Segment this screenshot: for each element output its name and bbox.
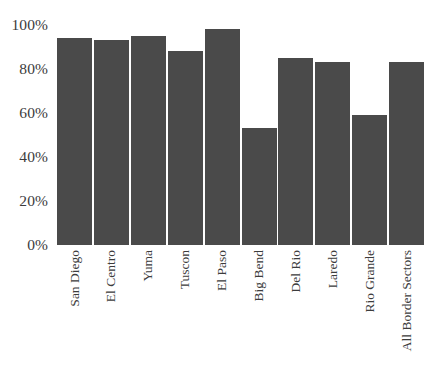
bar-slot [315,25,350,245]
bar-slot [57,25,92,245]
x-axis-tick-label: El Paso [215,250,229,291]
x-axis-tick-label: All Border Sectors [400,250,414,351]
bar-slot [94,25,129,245]
y-axis-tick-label: 40% [19,149,48,165]
x-axis-tick: San Diego [57,248,92,367]
x-axis-tick-label: El Centro [105,250,119,302]
x-axis-tick: El Centro [94,248,129,367]
plot-area [57,25,425,245]
x-axis-tick: Big Bend [242,248,277,367]
x-axis-tick-label: Yuma [142,250,156,282]
bar-slot [389,25,424,245]
x-axis-tick: Rio Grande [352,248,387,367]
bar[interactable] [131,36,166,245]
x-axis-tick-label: Tuscon [178,250,192,289]
bar-slot [205,25,240,245]
x-axis-tick-label: Rio Grande [363,250,377,313]
x-axis-tick: Del Rio [278,248,313,367]
x-axis-tick: All Border Sectors [389,248,424,367]
x-axis-tick: El Paso [205,248,240,367]
x-axis-tick: Laredo [315,248,350,367]
bar[interactable] [352,115,387,245]
bar-chart: 0%20%40%60%80%100% San DiegoEl CentroYum… [0,0,432,367]
x-axis-tick-label: Laredo [326,250,340,288]
x-axis: San DiegoEl CentroYumaTusconEl PasoBig B… [57,248,425,367]
bar[interactable] [94,40,129,245]
y-axis-tick-label: 20% [19,193,48,209]
bar-slot [242,25,277,245]
y-axis-tick-label: 60% [19,105,48,121]
x-axis-tick-label: San Diego [68,250,82,307]
x-axis-tick: Yuma [131,248,166,367]
y-axis: 0%20%40%60%80%100% [0,0,57,367]
bar[interactable] [242,128,277,245]
bar[interactable] [315,62,350,245]
bar[interactable] [168,51,203,245]
y-axis-tick-label: 100% [11,17,48,33]
bar-slot [131,25,166,245]
bar[interactable] [57,38,92,245]
x-axis-tick-label: Del Rio [289,250,303,292]
x-axis-tick: Tuscon [168,248,203,367]
bar-slot [278,25,313,245]
bar[interactable] [278,58,313,245]
x-axis-tick-label: Big Bend [252,250,266,301]
y-axis-tick-label: 80% [19,61,48,77]
y-axis-tick-label: 0% [27,237,48,253]
bar-slot [168,25,203,245]
bar[interactable] [205,29,240,245]
bar-slot [352,25,387,245]
bar[interactable] [389,62,424,245]
